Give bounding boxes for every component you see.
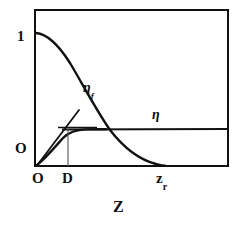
x-axis-tick-zr-text: z [156,170,163,186]
curve-label-eta-f-text: η [83,80,91,95]
x-axis-tick-zr-subscript: r [163,181,167,192]
curve-label-eta-f: ηf [83,80,94,98]
x-axis-tick-zr: zr [156,170,167,189]
x-axis-tick-d: D [62,170,73,187]
curve-label-eta: η [152,107,160,123]
curve-label-eta-text: η [152,107,160,122]
curve-label-eta-f-subscript: f [91,91,94,101]
plot-frame [35,10,228,166]
y-axis-top-label: 1 [17,28,25,45]
x-axis-title: Z [113,198,125,216]
y-axis-origin-label: O [15,140,27,157]
tangent-line-at-origin [37,110,79,166]
x-axis-tick-origin: O [32,170,44,187]
figure-container: 1 O ηf η O D zr Z [0,0,243,226]
plot-canvas [0,0,243,226]
curve-eta-rising [37,129,106,165]
